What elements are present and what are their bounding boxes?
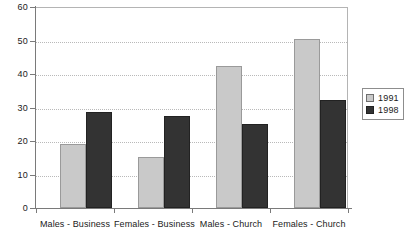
y-axis-label-30: 30 (4, 104, 28, 113)
bar-1998-males-church[interactable] (242, 124, 268, 208)
legend: 1991 1998 (362, 88, 404, 120)
category-label-females-business: Females - Business (114, 219, 192, 229)
bar-1998-females-business[interactable] (164, 116, 190, 208)
category-label-females-church: Females - Church (270, 219, 348, 229)
x-tick-4 (348, 208, 349, 213)
x-tick-1 (114, 208, 115, 213)
bar-group-females-business (128, 7, 200, 208)
bar-1991-females-church[interactable] (294, 39, 320, 209)
x-axis-line (30, 208, 352, 209)
bar-groups (36, 7, 348, 208)
legend-swatch-icon-1991 (366, 94, 374, 102)
y-axis-label-60: 60 (4, 3, 28, 12)
y-axis-label-20: 20 (4, 137, 28, 146)
y-axis-label-50: 50 (4, 37, 28, 46)
legend-label-1998: 1998 (378, 106, 399, 115)
y-axis-label-0: 0 (4, 204, 28, 213)
bar-group-males-business (50, 7, 122, 208)
bar-1991-females-business[interactable] (138, 157, 164, 208)
x-tick-0 (36, 208, 37, 213)
bar-1998-females-church[interactable] (320, 100, 346, 208)
legend-item-1991[interactable]: 1991 (366, 92, 399, 104)
legend-swatch-icon-1998 (366, 106, 374, 114)
bar-1991-males-business[interactable] (60, 144, 86, 208)
bar-1991-males-church[interactable] (216, 66, 242, 208)
bar-1998-males-business[interactable] (86, 112, 112, 208)
x-tick-3 (270, 208, 271, 213)
category-label-males-church: Males - Church (192, 219, 270, 229)
legend-item-1998[interactable]: 1998 (366, 104, 399, 116)
y-axis-label-40: 40 (4, 70, 28, 79)
bar-group-females-church (284, 7, 356, 208)
category-label-males-business: Males - Business (36, 219, 114, 229)
x-tick-2 (192, 208, 193, 213)
bar-chart: 0 10 20 30 40 50 60 Males - Business Fem… (0, 0, 417, 239)
y-axis-label-10: 10 (4, 171, 28, 180)
bar-group-males-church (206, 7, 278, 208)
legend-label-1991: 1991 (378, 94, 399, 103)
